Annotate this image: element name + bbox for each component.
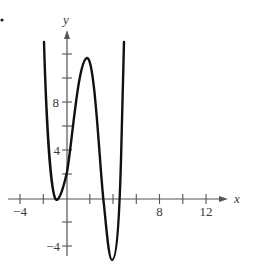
function-graph: −4 8 12 x 8 4 −4 y — [0, 0, 258, 273]
x-tick-label-8: 8 — [156, 204, 163, 219]
x-axis-arrow-icon — [219, 196, 228, 202]
x-tick-label-neg4: −4 — [13, 204, 27, 219]
x-axis: −4 8 12 x — [8, 191, 240, 219]
y-axis: 8 4 −4 y — [46, 12, 72, 256]
x-axis-label: x — [233, 191, 240, 206]
y-tick-label-4: 4 — [54, 143, 61, 158]
y-tick-label-8: 8 — [53, 95, 60, 110]
y-axis-label: y — [61, 12, 69, 27]
y-axis-arrow-icon — [64, 30, 70, 39]
x-tick-label-12: 12 — [200, 204, 213, 219]
part-marker-dot — [0, 18, 3, 21]
y-tick-label-neg4: −4 — [46, 239, 60, 254]
